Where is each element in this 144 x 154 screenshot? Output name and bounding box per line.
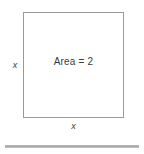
side-label-left: x	[10, 60, 20, 70]
square-area-diagram: Area = 2 x x	[0, 0, 144, 154]
side-label-bottom: x	[23, 121, 124, 131]
area-label: Area = 2	[23, 56, 124, 68]
horizontal-rule	[5, 145, 139, 148]
